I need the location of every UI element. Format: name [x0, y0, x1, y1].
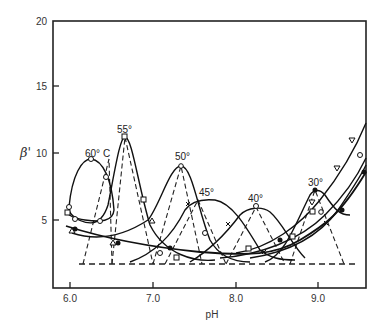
y-tick-label: 5 — [41, 215, 47, 226]
x-tick-label: 8.0 — [229, 293, 243, 304]
y-axis — [53, 86, 59, 220]
y-tick-label: 20 — [36, 16, 48, 27]
peak-label-40: 40° — [248, 193, 263, 204]
peak-label-55: 55° — [117, 124, 132, 135]
chart: 5 10 15 20 β' 6.0 7.0 8.0 9.0 pH — [0, 0, 386, 335]
peak-label-60: 60° C — [85, 148, 110, 159]
x-axis — [70, 282, 318, 288]
x-tick-label: 9.0 — [311, 293, 325, 304]
y-tick-label: 10 — [36, 148, 48, 159]
peak-label-50: 50° — [175, 151, 190, 162]
peak-label-45: 45° — [199, 187, 214, 198]
peak-label-30: 30° — [308, 177, 323, 188]
x-tick-label: 6.0 — [63, 293, 77, 304]
y-tick-label: 15 — [36, 81, 48, 92]
y-axis-label: β' — [19, 145, 31, 160]
x-tick-label: 7.0 — [146, 293, 160, 304]
x-axis-label: pH — [206, 309, 219, 320]
